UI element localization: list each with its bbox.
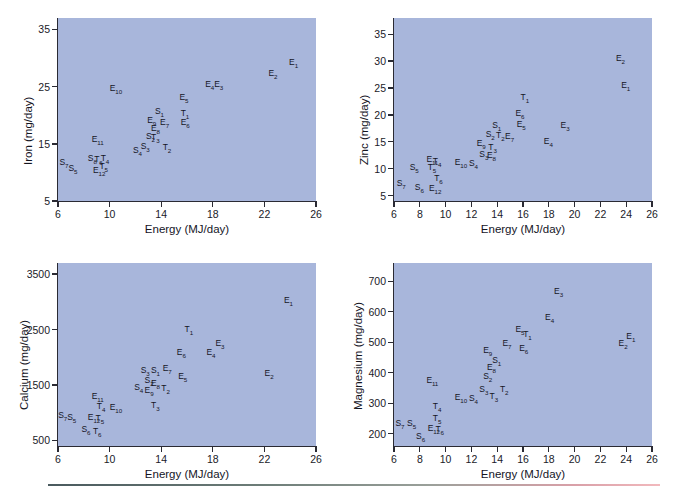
data-point-label: S5 [407, 419, 416, 430]
x-tick-magnesium-10 [651, 447, 652, 452]
x-tick-magnesium-2 [445, 447, 446, 452]
data-point-label: T4 [433, 402, 441, 413]
data-point-label: E7 [503, 339, 512, 350]
x-axis-title-magnesium: Energy (MJ/day) [443, 468, 603, 480]
data-point-label: E9 [483, 346, 492, 357]
x-tick-magnesium-4 [497, 447, 498, 452]
x-tick-label-magnesium-10: 26 [632, 453, 672, 465]
data-point-label: T1 [523, 330, 531, 341]
y-axis-title-magnesium: Magnesium (mg/day) [352, 301, 364, 409]
scatter-panel-magnesium: 68101214161820222426200300400500600700En… [0, 0, 676, 494]
data-point-label: E10 [455, 393, 467, 404]
data-point-label: E6 [519, 344, 528, 355]
figure-canvas: 610141822265152535Energy (MJ/day)Iron (m… [0, 0, 676, 494]
x-tick-magnesium-6 [548, 447, 549, 452]
data-point-label: T6 [435, 425, 443, 436]
y-tick-label-magnesium-0: 200 [346, 428, 386, 440]
data-point-label: T3 [490, 392, 498, 403]
data-point-label: S3 [479, 385, 488, 396]
footer-rule [48, 484, 660, 486]
y-tick-magnesium-3 [388, 342, 393, 343]
data-point-label: S4 [469, 394, 478, 405]
data-point-label: E2 [619, 339, 628, 350]
x-tick-magnesium-9 [626, 447, 627, 452]
y-tick-magnesium-5 [388, 281, 393, 282]
data-point-label: S2 [483, 372, 492, 383]
x-tick-magnesium-1 [419, 447, 420, 452]
x-tick-magnesium-8 [600, 447, 601, 452]
data-point-label: E1 [626, 332, 635, 343]
x-tick-magnesium-0 [393, 447, 394, 452]
data-point-label: T2 [500, 385, 508, 396]
x-tick-magnesium-3 [471, 447, 472, 452]
y-tick-magnesium-4 [388, 311, 393, 312]
y-axis-line-magnesium [393, 263, 394, 447]
y-tick-magnesium-2 [388, 372, 393, 373]
data-point-label: E3 [554, 287, 563, 298]
data-point-label: E4 [545, 313, 554, 324]
data-point-label: S7 [395, 419, 404, 430]
y-tick-label-magnesium-5: 700 [346, 275, 386, 287]
data-point-label: E11 [426, 376, 438, 387]
y-tick-magnesium-1 [388, 403, 393, 404]
x-tick-magnesium-7 [574, 447, 575, 452]
data-point-label: S6 [416, 432, 425, 443]
y-tick-magnesium-0 [388, 433, 393, 434]
x-tick-magnesium-5 [522, 447, 523, 452]
